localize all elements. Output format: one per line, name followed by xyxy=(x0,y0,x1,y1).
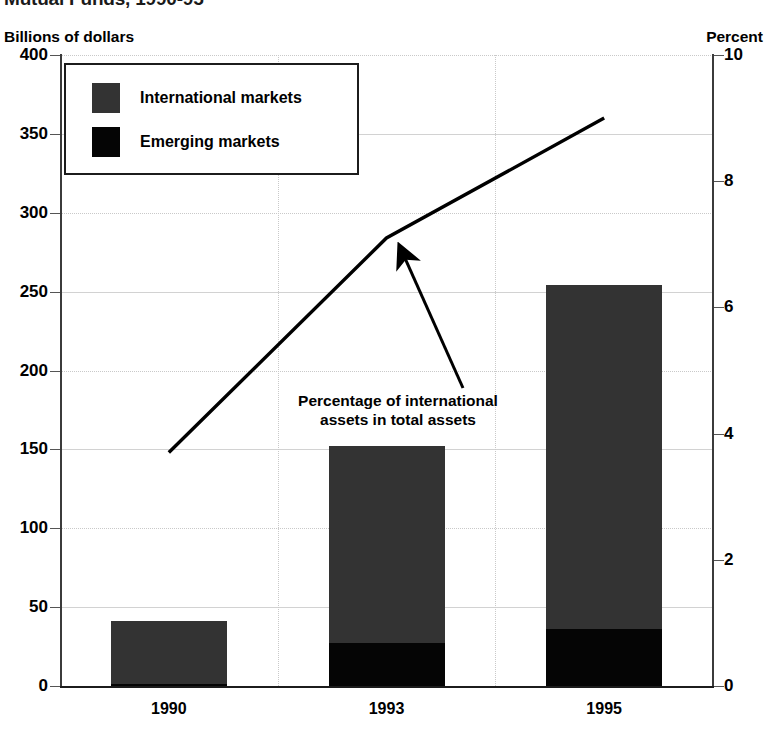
chart-container: Mutual Funds, 1990-95 Billions of dollar… xyxy=(0,0,769,744)
annotation-line-1: Percentage of international xyxy=(283,392,513,411)
y-axis-right-tickmark xyxy=(714,181,724,182)
y-axis-right-tickmark xyxy=(714,560,724,561)
y-axis-right-tick-2: 2 xyxy=(724,550,764,570)
bar-segment-1995-international-markets xyxy=(546,285,662,629)
legend-label-international: International markets xyxy=(140,89,302,107)
bar-segment-1993-emerging-markets xyxy=(329,643,445,686)
y-axis-right-tickmark xyxy=(714,686,724,687)
y-axis-left-tick-300: 300 xyxy=(0,203,48,223)
legend-label-emerging: Emerging markets xyxy=(140,133,280,151)
vertical-gridline xyxy=(495,55,496,686)
gridline xyxy=(60,213,713,214)
right-axis-caption: Percent xyxy=(706,28,763,46)
legend-swatch-emerging xyxy=(92,127,120,157)
x-axis-tick-1993: 1993 xyxy=(369,700,405,718)
y-axis-left-tickmark xyxy=(50,55,60,56)
annotation-line-2: assets in total assets xyxy=(283,411,513,430)
y-axis-left-line xyxy=(60,54,62,688)
bar-segment-1995-emerging-markets xyxy=(546,629,662,686)
y-axis-left-tick-200: 200 xyxy=(0,361,48,381)
y-axis-left-tick-400: 400 xyxy=(0,45,48,65)
y-axis-left-tickmark xyxy=(50,292,60,293)
y-axis-left-tickmark xyxy=(50,134,60,135)
y-axis-right-line xyxy=(712,54,714,688)
y-axis-right-tickmark xyxy=(714,307,724,308)
y-axis-right-tickmark xyxy=(714,55,724,56)
y-axis-left-tickmark xyxy=(50,371,60,372)
legend: International markets Emerging markets xyxy=(64,63,359,175)
chart-title: Mutual Funds, 1990-95 xyxy=(4,0,204,10)
y-axis-left-tickmark xyxy=(50,686,60,687)
y-axis-left-tick-150: 150 xyxy=(0,439,48,459)
y-axis-left-tick-350: 350 xyxy=(0,124,48,144)
legend-item-international: International markets xyxy=(92,83,302,113)
legend-item-emerging: Emerging markets xyxy=(92,127,280,157)
gridline xyxy=(60,55,713,56)
y-axis-right-tick-6: 6 xyxy=(724,297,764,317)
bar-segment-1990-international-markets xyxy=(111,621,227,684)
left-axis-caption: Billions of dollars xyxy=(4,28,134,46)
y-axis-right-tickmark xyxy=(714,434,724,435)
chart-annotation: Percentage of international assets in to… xyxy=(283,392,513,430)
y-axis-left-tickmark xyxy=(50,528,60,529)
y-axis-left-tickmark xyxy=(50,213,60,214)
x-axis-tick-1995: 1995 xyxy=(586,700,622,718)
x-axis-tick-1990: 1990 xyxy=(151,700,187,718)
y-axis-left-tick-0: 0 xyxy=(0,676,48,696)
y-axis-left-tickmark xyxy=(50,607,60,608)
y-axis-right-tick-10: 10 xyxy=(724,45,764,65)
y-axis-left-tick-100: 100 xyxy=(0,518,48,538)
y-axis-left-tick-50: 50 xyxy=(0,597,48,617)
y-axis-right-tick-4: 4 xyxy=(724,424,764,444)
y-axis-left-tick-250: 250 xyxy=(0,282,48,302)
y-axis-right-tick-0: 0 xyxy=(724,676,764,696)
x-axis-line xyxy=(60,686,714,688)
legend-swatch-international xyxy=(92,83,120,113)
y-axis-right-tick-8: 8 xyxy=(724,171,764,191)
y-axis-left-tickmark xyxy=(50,449,60,450)
bar-segment-1993-international-markets xyxy=(329,446,445,643)
